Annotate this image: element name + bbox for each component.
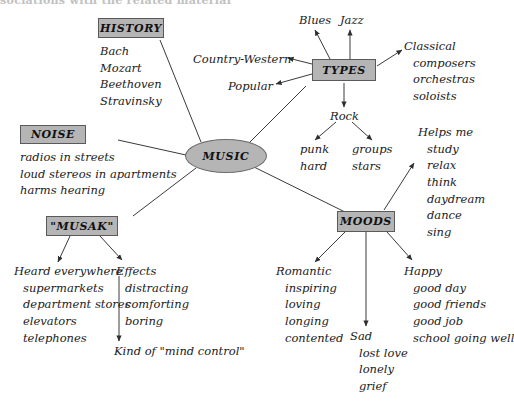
node-types[interactable]: TYPES	[312, 59, 376, 81]
musak-heard-group: Heard everywhere supermarkets department…	[14, 263, 131, 346]
node-music-label: MUSIC	[202, 150, 249, 163]
edge-musak-heard	[58, 236, 70, 262]
list-item: longing	[276, 313, 343, 330]
types-jazz: Jazz	[340, 12, 364, 28]
node-moods-label: MOODS	[340, 215, 392, 228]
list-item: loving	[276, 296, 343, 313]
noise-items: radios in streets loud stereos in apartm…	[20, 149, 177, 199]
node-noise-label: NOISE	[31, 128, 75, 141]
history-items: Bach Mozart Beethoven Stravinsky	[100, 43, 162, 110]
list-item: Beethoven	[100, 76, 162, 93]
edge-music-types	[250, 86, 306, 142]
list-item: stars	[352, 158, 392, 175]
list-item: distracting	[116, 280, 189, 297]
list-item: orchestras	[404, 71, 476, 88]
list-item: supermarkets	[14, 280, 131, 297]
list-item: department stores	[14, 296, 131, 313]
edge-musak-effects	[100, 236, 122, 260]
list-item: soloists	[404, 88, 476, 105]
musak-heard-head: Heard everywhere	[14, 263, 131, 280]
list-item: think	[418, 174, 485, 191]
edge-types-country	[288, 58, 312, 64]
moods-romantic-head: Romantic	[276, 263, 343, 280]
list-item: relax	[418, 157, 485, 174]
list-item: lost love	[350, 345, 408, 362]
list-item: lonely	[350, 361, 408, 378]
edge-moods-romantic	[315, 232, 345, 262]
moods-sad-head: Sad	[350, 328, 408, 345]
types-blues: Blues	[299, 12, 331, 28]
list-item: Stravinsky	[100, 93, 162, 110]
list-item: good job	[404, 313, 514, 330]
types-classical-group: Classical composers orchestras soloists	[404, 38, 476, 105]
list-item: boring	[116, 313, 189, 330]
edge-types-blues	[315, 30, 330, 59]
types-classical-head: Classical	[404, 38, 476, 55]
list-item: composers	[404, 55, 476, 72]
list-item: study	[418, 141, 485, 158]
list-item: inspiring	[276, 280, 343, 297]
musak-conclusion: Kind of "mind control"	[114, 343, 245, 359]
list-item: grief	[350, 378, 408, 395]
list-item: school going well	[404, 330, 514, 347]
musak-effects-head: Effects	[116, 263, 189, 280]
moods-helps-group: Helps me study relax think daydream danc…	[418, 124, 485, 241]
node-history-label: HISTORY	[100, 22, 162, 35]
moods-helps-head: Helps me	[418, 124, 485, 141]
edge-types-popular	[276, 74, 312, 84]
list-item: elevators	[14, 313, 131, 330]
node-music[interactable]: MUSIC	[185, 139, 267, 173]
node-types-label: TYPES	[322, 64, 366, 77]
node-musak[interactable]: "MUSAK"	[46, 216, 118, 236]
moods-sad-group: Sad lost love lonely grief	[350, 328, 408, 395]
moods-happy-group: Happy good day good friends good job sch…	[404, 263, 514, 346]
types-popular: Popular	[228, 78, 273, 94]
rock-left-group: punk hard	[300, 141, 329, 174]
types-rock-head: Rock	[330, 108, 359, 124]
list-item: sing	[418, 224, 485, 241]
list-item: dance	[418, 207, 485, 224]
list-item: comforting	[116, 296, 189, 313]
node-history[interactable]: HISTORY	[98, 18, 164, 38]
moods-romantic-group: Romantic inspiring loving longing conten…	[276, 263, 343, 346]
list-item: contented	[276, 330, 343, 347]
list-item: good day	[404, 280, 514, 297]
edge-rock-groups	[352, 122, 372, 140]
list-item: hard	[300, 158, 329, 175]
list-item: good friends	[404, 296, 514, 313]
list-item: harms hearing	[20, 182, 177, 199]
edge-rock-punk	[315, 122, 336, 140]
list-item: punk	[300, 141, 329, 158]
list-item: Mozart	[100, 60, 162, 77]
list-item: Bach	[100, 43, 162, 60]
edge-moods-happy	[387, 232, 412, 260]
list-item: loud stereos in apartments	[20, 166, 177, 183]
list-item: daydream	[418, 191, 485, 208]
list-item: radios in streets	[20, 149, 177, 166]
node-musak-label: "MUSAK"	[50, 220, 113, 233]
edge-types-classical	[377, 50, 402, 66]
list-item: groups	[352, 141, 392, 158]
node-moods[interactable]: MOODS	[337, 211, 395, 232]
rock-right-group: groups stars	[352, 141, 392, 174]
types-country-western: Country-Western	[193, 51, 291, 67]
node-noise[interactable]: NOISE	[20, 125, 86, 144]
moods-happy-head: Happy	[404, 263, 514, 280]
page-header-fragment: sociations with the related material	[0, 0, 231, 7]
musak-effects-group: Effects distracting comforting boring	[116, 263, 189, 330]
